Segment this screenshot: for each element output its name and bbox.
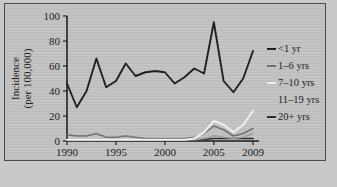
x-tick-label: 1995	[105, 146, 128, 158]
y-axis-tick-group: 020406080100	[44, 10, 68, 147]
chart-legend: <1 yr1–6 yrs7–10 yrs11–19 yrs20+ yrs	[267, 43, 319, 122]
series-line-7-10-yrs	[67, 111, 253, 140]
incidence-line-chart: 020406080100 19901995200020052009 Year I…	[5, 4, 325, 160]
legend-item: 7–10 yrs	[267, 77, 314, 88]
legend-item: 1–6 yrs	[267, 60, 309, 71]
x-tick-label: 1990	[56, 146, 79, 158]
x-tick-label: 2009	[242, 146, 265, 158]
legend-label: 20+ yrs	[278, 111, 310, 122]
legend-item: 11–19 yrs	[278, 94, 319, 105]
legend-label: 7–10 yrs	[278, 77, 314, 88]
legend-item: <1 yr	[267, 43, 301, 54]
series-group	[67, 22, 253, 140]
y-tick-label: 100	[44, 10, 61, 22]
series-line-1-6-yrs	[67, 126, 253, 139]
x-tick-label: 2000	[154, 146, 177, 158]
y-tick-label: 80	[49, 35, 61, 47]
y-axis-title-line2: (per 100,000)	[21, 48, 34, 108]
y-tick-label: 20	[49, 110, 61, 122]
legend-item: 20+ yrs	[267, 111, 310, 122]
chart-plate: 020406080100 19901995200020052009 Year I…	[4, 3, 326, 161]
x-axis-tick-group: 19901995200020052009	[56, 141, 265, 158]
figure-container: 020406080100 19901995200020052009 Year I…	[0, 0, 337, 187]
x-tick-label: 2005	[203, 146, 226, 158]
y-tick-label: 40	[49, 85, 61, 97]
y-axis-title-line1: Incidence	[9, 57, 21, 100]
legend-label: 11–19 yrs	[278, 94, 319, 105]
legend-label: <1 yr	[278, 43, 301, 54]
legend-label: 1–6 yrs	[278, 60, 309, 71]
y-tick-label: 60	[49, 60, 61, 72]
series-line--1-yr	[67, 22, 253, 107]
